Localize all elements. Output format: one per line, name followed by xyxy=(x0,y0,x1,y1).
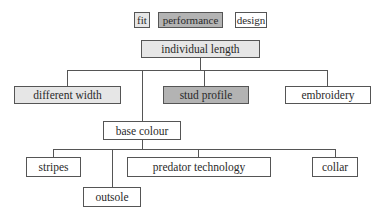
node-individual-length: individual length xyxy=(141,40,260,58)
legend-performance-label: performance xyxy=(163,14,219,26)
connector xyxy=(142,140,143,149)
connector xyxy=(67,70,68,86)
connector xyxy=(142,70,143,121)
node-label: different width xyxy=(33,89,101,101)
connector xyxy=(53,149,336,150)
node-label: embroidery xyxy=(301,89,354,101)
connector xyxy=(335,149,336,157)
node-label: predator technology xyxy=(153,161,245,173)
connector xyxy=(53,149,54,157)
node-label: individual length xyxy=(161,43,239,55)
node-stripes: stripes xyxy=(26,157,81,177)
node-label: outsole xyxy=(95,191,128,203)
connector xyxy=(67,70,328,71)
node-different-width: different width xyxy=(14,86,121,104)
node-predator-technology: predator technology xyxy=(127,157,271,177)
node-embroidery: embroidery xyxy=(285,86,371,104)
connector xyxy=(112,149,113,187)
connector xyxy=(198,149,199,157)
connector xyxy=(327,70,328,86)
node-collar: collar xyxy=(312,157,358,177)
connector xyxy=(204,70,205,86)
node-base-colour: base colour xyxy=(103,121,181,140)
node-label: base colour xyxy=(116,125,169,137)
node-stud-profile: stud profile xyxy=(163,86,249,104)
legend-performance: performance xyxy=(158,12,223,28)
legend-fit: fit xyxy=(134,12,150,28)
node-label: collar xyxy=(322,161,348,173)
legend-design: design xyxy=(235,12,267,28)
node-label: stripes xyxy=(38,161,68,173)
legend-design-label: design xyxy=(237,14,266,26)
node-outsole: outsole xyxy=(83,187,141,207)
legend-fit-label: fit xyxy=(137,14,147,26)
node-label: stud profile xyxy=(180,89,233,101)
